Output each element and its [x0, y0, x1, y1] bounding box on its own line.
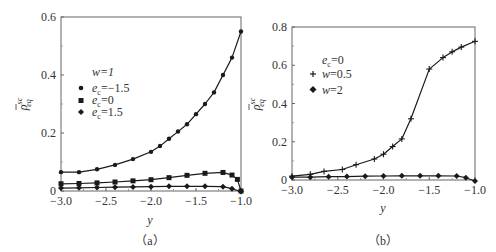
- x-tick-label: −2.5: [95, 194, 117, 208]
- y-tick-label: 0: [50, 184, 56, 198]
- x-axis-label-b: y: [379, 201, 386, 215]
- y-tick-label: 0.4: [41, 68, 56, 82]
- diamond-marker-icon: [148, 184, 154, 190]
- plus-marker-icon: [408, 116, 414, 122]
- svg-text:w=0.5: w=0.5: [322, 67, 352, 81]
- circle-marker-icon: [79, 86, 84, 91]
- y-tick-label: 0.6: [272, 58, 287, 72]
- circle-marker-icon: [176, 129, 180, 133]
- circle-marker-icon: [149, 150, 153, 154]
- square-marker-icon: [185, 173, 190, 178]
- y-axis-label-a: ρsceq: [15, 97, 33, 111]
- square-marker-icon: [221, 170, 226, 175]
- diamond-marker-icon: [166, 183, 172, 189]
- x-tick-label: −2.0: [140, 194, 162, 208]
- diamond-marker-icon: [454, 173, 460, 179]
- square-marker-icon: [131, 178, 136, 183]
- y-tick-label: 0.4: [272, 97, 287, 111]
- diamond-marker-icon: [94, 185, 100, 191]
- x-tick-label: −2.5: [327, 183, 349, 197]
- panel-b: −3.0−2.5−2.0−1.5−1.0 00.20.40.60.8 y ρsc…: [248, 20, 486, 248]
- plot-frame-a: [61, 17, 241, 191]
- legend-b: ec=0 w=0.5 w=2: [310, 53, 352, 97]
- x-tick-label: −2.0: [373, 183, 395, 197]
- diamond-marker-icon: [435, 173, 441, 179]
- panel-a: −3.0−2.5−2.0−1.5−1.0 00.20.40.6 y ρsceq …: [15, 10, 252, 248]
- diamond-marker-icon: [130, 184, 136, 190]
- plus-marker-icon: [458, 44, 464, 50]
- circle-marker-icon: [77, 170, 81, 174]
- legend-item-b-0: w=0.5: [310, 67, 352, 81]
- series-a: [58, 29, 244, 194]
- legend-item-b-1: w=2: [310, 83, 343, 97]
- svg-text:ρsceq: ρsceq: [248, 97, 266, 111]
- series-line: [58, 183, 244, 194]
- diamond-marker-icon: [381, 173, 387, 179]
- square-marker-icon: [79, 98, 84, 103]
- circle-marker-icon: [185, 122, 189, 126]
- plus-marker-icon: [449, 49, 455, 55]
- diamond-marker-icon: [289, 174, 295, 180]
- square-marker-icon: [230, 173, 235, 178]
- plus-marker-icon: [339, 166, 345, 172]
- circle-marker-icon: [230, 55, 234, 59]
- diamond-marker-icon: [184, 183, 190, 189]
- square-marker-icon: [149, 177, 154, 182]
- diamond-marker-icon: [326, 174, 332, 180]
- plus-marker-icon: [472, 38, 478, 44]
- diamond-marker-icon: [310, 86, 317, 93]
- square-marker-icon: [113, 180, 118, 185]
- caption-b: （b）: [368, 234, 398, 248]
- diamond-marker-icon: [399, 173, 405, 179]
- diamond-marker-icon: [344, 174, 350, 180]
- circle-marker-icon: [194, 112, 198, 116]
- circle-marker-icon: [221, 73, 225, 77]
- diamond-marker-icon: [78, 109, 84, 115]
- plus-marker-icon: [353, 162, 359, 168]
- x-axis-label-a: y: [146, 213, 153, 227]
- diamond-marker-icon: [417, 173, 423, 179]
- y-tick-label: 0.6: [41, 10, 56, 24]
- legend-a: w=1 ec=−1.5 ec=0 ec=1.5: [78, 65, 129, 121]
- circle-marker-icon: [167, 137, 171, 141]
- circle-marker-icon: [239, 29, 243, 33]
- y-tick-label: 0.8: [272, 20, 287, 34]
- y-tick-label: 0.2: [272, 135, 287, 149]
- caption-a: （a）: [135, 234, 164, 248]
- legend-item-a-2: ec=1.5: [78, 105, 123, 121]
- y-tick-label: 0: [281, 173, 287, 187]
- figure: −3.0−2.5−2.0−1.5−1.0 00.20.40.6 y ρsceq …: [0, 0, 496, 252]
- y-tick-label: 0.2: [41, 126, 56, 140]
- svg-text:ρsceq: ρsceq: [15, 97, 33, 111]
- diamond-marker-icon: [362, 173, 368, 179]
- square-marker-icon: [235, 177, 240, 182]
- diamond-marker-icon: [112, 184, 118, 190]
- y-axis-label-b: ρsceq: [248, 97, 266, 111]
- diamond-marker-icon: [220, 184, 226, 190]
- svg-text:ec=1.5: ec=1.5: [92, 105, 123, 121]
- square-marker-icon: [167, 175, 172, 180]
- circle-marker-icon: [131, 157, 135, 161]
- square-marker-icon: [203, 171, 208, 176]
- plus-marker-icon: [321, 168, 327, 174]
- diamond-marker-icon: [202, 183, 208, 189]
- svg-text:w=2: w=2: [322, 83, 343, 97]
- circle-marker-icon: [113, 163, 117, 167]
- x-tick-label: −1.0: [230, 194, 252, 208]
- circle-marker-icon: [59, 170, 63, 174]
- series-b: [289, 38, 478, 184]
- circle-marker-icon: [95, 167, 99, 171]
- x-tick-label: −1.0: [464, 183, 486, 197]
- plus-marker-icon: [371, 156, 377, 162]
- series-line: [59, 29, 243, 174]
- series-line: [289, 38, 478, 179]
- circle-marker-icon: [158, 144, 162, 148]
- legend-title-a: w=1: [92, 65, 114, 79]
- x-tick-label: −1.5: [185, 194, 207, 208]
- circle-marker-icon: [212, 90, 216, 94]
- x-tick-label: −1.5: [418, 183, 440, 197]
- circle-marker-icon: [203, 102, 207, 106]
- plus-marker-icon: [310, 71, 316, 77]
